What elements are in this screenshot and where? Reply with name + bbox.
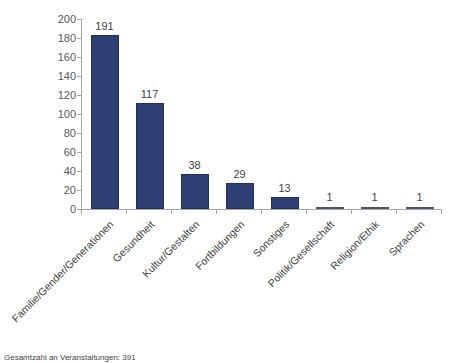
bar-slot: 1 <box>397 27 442 209</box>
bar-value-label: 38 <box>188 160 200 171</box>
bar-religion-ethik <box>361 207 389 209</box>
plot-area: 191 117 38 29 13 1 1 1 <box>82 27 442 209</box>
bar-slot: 1 <box>352 27 397 209</box>
bar-value-label: 117 <box>141 89 159 100</box>
bar-slot: 13 <box>262 27 307 209</box>
bar-value-label: 1 <box>326 192 332 203</box>
bar-value-label: 1 <box>371 192 377 203</box>
bar-value-label: 29 <box>233 169 245 180</box>
bar-kultur-gestalten <box>181 174 209 209</box>
bar-slot: 117 <box>127 27 172 209</box>
y-tick-label: 60 <box>46 147 76 158</box>
bar-slot: 191 <box>82 27 127 209</box>
y-tick-label: 200 <box>46 14 76 25</box>
bar-chart: 200 180 160 140 120 100 80 60 40 20 0 <box>0 0 452 363</box>
y-tick-label: 0 <box>46 204 76 215</box>
bar-slot: 1 <box>307 27 352 209</box>
bar-politik-gesellschaft <box>316 207 344 209</box>
bar-sprachen <box>406 207 434 209</box>
y-tick-label: 20 <box>46 185 76 196</box>
bar-slot: 29 <box>217 27 262 209</box>
bar-value-label: 13 <box>278 183 290 194</box>
y-tick-label: 140 <box>46 71 76 82</box>
y-tick-label: 120 <box>46 90 76 101</box>
bar-value-label: 191 <box>95 21 113 32</box>
y-tick-label: 80 <box>46 128 76 139</box>
bar-sonstiges <box>271 197 299 209</box>
y-tick-label: 100 <box>46 109 76 120</box>
chart-footnote: Gesamtzahl an Veranstaltungen: 391 <box>4 353 136 362</box>
bar-slot: 38 <box>172 27 217 209</box>
bar-fortbildungen <box>226 183 254 209</box>
bar-familie-gender-generationen <box>91 35 119 209</box>
bar-gesundheit <box>136 103 164 210</box>
bar-value-label: 1 <box>416 192 422 203</box>
y-tick-label: 180 <box>46 33 76 44</box>
y-tick-label: 160 <box>46 52 76 63</box>
y-tick-label: 40 <box>46 166 76 177</box>
